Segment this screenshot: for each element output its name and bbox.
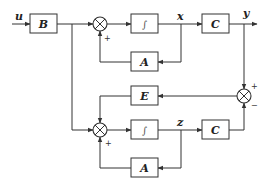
signal-y-label: y	[242, 7, 251, 20]
observer-c-to-error-line	[229, 103, 244, 130]
observer-integrator-label: ∫	[142, 125, 147, 136]
signal-u-label: u	[15, 10, 23, 23]
summing-junction-error	[237, 89, 251, 103]
sum1-plus-sign: +	[104, 34, 111, 43]
sum2-plus-sign: +	[105, 139, 112, 148]
e-to-sum2-line	[100, 96, 131, 123]
block-diagram: u B + ∫ x C y A + − E	[0, 0, 264, 192]
error-minus-sign: −	[251, 101, 258, 110]
signal-x-label: x	[176, 10, 184, 23]
observer-e-label: E	[139, 90, 149, 103]
observer-a-label: A	[139, 162, 149, 175]
plant-integrator-label: ∫	[142, 19, 147, 30]
x-feedback-line	[158, 24, 181, 62]
signal-z-label: z	[176, 116, 184, 129]
plant-a-label: A	[139, 56, 149, 69]
plant-c-label: C	[211, 18, 220, 31]
error-plus-sign: +	[251, 82, 258, 91]
summing-junction-plant	[93, 17, 107, 31]
observer-c-label: C	[211, 124, 220, 137]
summing-junction-observer	[93, 123, 107, 137]
z-feedback-line	[158, 130, 181, 168]
b-to-sum2-line	[72, 24, 93, 130]
block-b-label: B	[38, 18, 48, 31]
